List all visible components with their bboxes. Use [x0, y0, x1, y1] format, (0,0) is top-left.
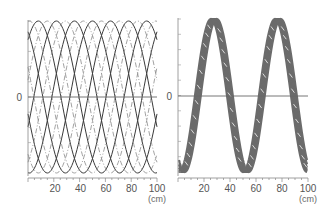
right-x-label-80: 80: [276, 183, 288, 194]
right-y-ticks: [178, 19, 181, 172]
left-panel: 0 20 40 60 80 100 (cm): [16, 20, 166, 204]
left-x-label-40: 40: [75, 183, 87, 194]
chart-canvas: 0 20 40 60 80 100 (cm) 0 20 40 60 80 100…: [0, 0, 333, 218]
right-x-unit: (cm): [299, 194, 317, 204]
left-x-label-80: 80: [126, 183, 138, 194]
left-x-unit: (cm): [148, 194, 166, 204]
right-x-label-20: 20: [198, 183, 210, 194]
right-panel: 0 20 40 60 80 100 (cm): [166, 18, 317, 204]
left-x-label-60: 60: [100, 183, 112, 194]
right-x-ticks: [178, 178, 308, 182]
left-x-ticks: [28, 178, 157, 182]
right-band: [179, 19, 307, 172]
left-zero-label: 0: [16, 92, 22, 103]
left-x-label-20: 20: [49, 183, 61, 194]
right-zero-label: 0: [166, 91, 172, 102]
left-x-label-100: 100: [149, 183, 166, 194]
right-x-label-40: 40: [224, 183, 236, 194]
right-x-label-60: 60: [250, 183, 262, 194]
right-x-label-100: 100: [300, 183, 317, 194]
